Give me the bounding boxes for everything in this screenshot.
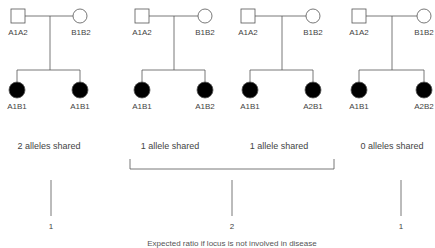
bracket	[130, 159, 334, 169]
genotype-label: A1A2	[132, 28, 152, 37]
family-3	[241, 9, 321, 98]
genotype-label: A1B1	[132, 102, 152, 111]
affected-child-2	[72, 82, 88, 98]
sharing-caption: 0 alleles shared	[360, 141, 423, 151]
genotype-label: A1A2	[8, 28, 28, 37]
genotype-label: A1B1	[70, 102, 90, 111]
ratio-value: 2	[230, 222, 234, 231]
genotype-label: A1A2	[349, 28, 369, 37]
ratio-value: 1	[399, 222, 403, 231]
mother-symbol	[73, 9, 87, 23]
genotype-label: A1B1	[349, 102, 369, 111]
father-symbol	[11, 9, 25, 23]
affected-child-1	[9, 82, 25, 98]
genotype-label: B1B2	[414, 28, 434, 37]
genotype-label: A1B1	[240, 102, 260, 111]
genotype-label: A1B2	[195, 102, 215, 111]
genotype-label: A2B2	[414, 102, 434, 111]
footer-caption: Expected ratio if locus is not involved …	[147, 239, 316, 248]
genotype-label: A1A2	[238, 28, 258, 37]
genotype-label: B1B2	[71, 28, 91, 37]
family-2	[134, 9, 213, 98]
genotype-label: B1B2	[303, 28, 323, 37]
genotype-label: B1B2	[195, 28, 215, 37]
family-4	[351, 9, 432, 98]
sharing-caption: 1 allele shared	[141, 141, 200, 151]
sharing-caption: 2 alleles shared	[17, 141, 80, 151]
genotype-label: A1B1	[7, 102, 27, 111]
sharing-caption: 1 allele shared	[250, 141, 309, 151]
ratio-value: 1	[49, 222, 53, 231]
genotype-label: A2B1	[303, 102, 323, 111]
family-1	[9, 9, 88, 98]
